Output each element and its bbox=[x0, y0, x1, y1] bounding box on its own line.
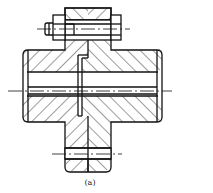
figure-caption: (a) bbox=[70, 178, 110, 187]
coupling-drawing bbox=[0, 0, 213, 193]
right-nut bbox=[111, 15, 121, 40]
bottom-hub bbox=[65, 148, 111, 172]
